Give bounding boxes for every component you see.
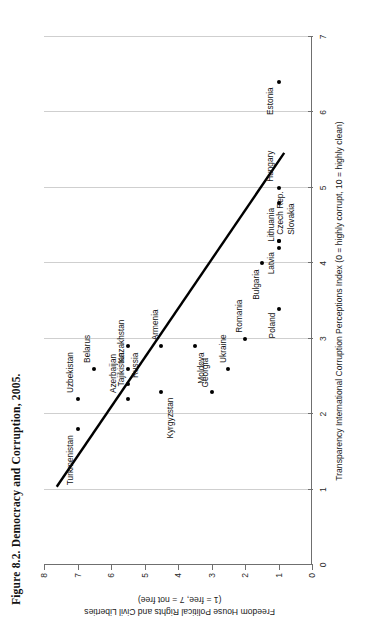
data-point-bulgaria (260, 261, 264, 265)
x-tick-label-6: 6 (318, 110, 328, 115)
x-tick-label-1: 1 (318, 487, 328, 492)
y-tick-label-0: 0 (307, 573, 317, 585)
y-tick-label-1: 1 (274, 573, 284, 585)
x-tick-4 (308, 262, 313, 263)
data-point-poland (277, 307, 281, 311)
data-point-ukraine (226, 367, 230, 371)
point-label-russia: Russia (130, 353, 140, 378)
data-point-romania (243, 337, 247, 341)
y-tick-label-2: 2 (240, 573, 250, 585)
y-tick-3 (212, 565, 213, 570)
data-point-estonia (277, 80, 281, 84)
y-tick-2 (245, 565, 246, 570)
data-point-uzbekistan (76, 397, 80, 401)
trend-line (44, 37, 312, 565)
point-label-poland: Poland (267, 313, 277, 339)
data-point-lithuania (277, 201, 281, 205)
data-point-tajikistan (126, 344, 130, 348)
y-tick-label-4: 4 (173, 573, 183, 585)
gridline-x-7 (44, 36, 312, 37)
y-tick-5 (145, 565, 146, 570)
point-label-kazakhstan: Kazakhstan (116, 320, 126, 363)
point-label-belarus: Belarus (82, 335, 92, 363)
point-label-czech-rep: Czech Rep. (275, 191, 285, 234)
x-tick-6 (308, 111, 313, 112)
rotated-figure-canvas: Figure 8.2. Democracy and Corruption, 20… (0, 0, 376, 619)
y-tick-1 (279, 565, 280, 570)
y-axis-title-line1: Freedom House Political Rights and Civil… (84, 607, 275, 617)
data-point-czech-rep (277, 239, 281, 243)
point-label-slovakia: Slovakia (286, 203, 296, 234)
x-tick-7 (308, 36, 313, 37)
data-point-moldova (193, 344, 197, 348)
x-axis-title: Transparency International Corruption Pe… (334, 37, 344, 565)
gridline-x-2 (44, 413, 312, 414)
data-point-azerbaijan (126, 397, 130, 401)
y-tick-7 (78, 565, 79, 570)
point-label-ukraine: Ukraine (218, 334, 228, 363)
plot-area: 01234567012345678 TurkmenistanUzbekistan… (44, 37, 312, 565)
data-point-hungary (277, 186, 281, 190)
data-point-turkmenistan (76, 427, 80, 431)
y-tick-label-6: 6 (106, 573, 116, 585)
point-label-romania: Romania (234, 300, 244, 333)
y-tick-6 (111, 565, 112, 570)
data-point-kyrgyzstan (159, 390, 163, 394)
x-axis-line (311, 37, 312, 565)
x-tick-label-7: 7 (318, 35, 328, 40)
x-tick-1 (308, 489, 313, 490)
gridline-x-1 (44, 489, 312, 490)
data-point-belarus (92, 367, 96, 371)
y-axis-title: Freedom House Political Rights and Civil… (80, 593, 280, 616)
figure-page: Figure 8.2. Democracy and Corruption, 20… (0, 0, 376, 619)
y-tick-label-7: 7 (73, 573, 83, 585)
point-label-uzbekistan: Uzbekistan (65, 352, 75, 393)
x-tick-label-0: 0 (318, 563, 328, 568)
point-label-latvia: Latvia (266, 252, 276, 274)
data-point-russia (126, 382, 130, 386)
point-label-turkmenistan: Turkmenistan (65, 435, 75, 485)
x-tick-label-4: 4 (318, 261, 328, 266)
data-point-armenia (159, 344, 163, 348)
y-axis-title-line2: (1 = free, 7 = not free) (138, 595, 222, 605)
point-label-georgia: Georgia (200, 358, 210, 388)
point-label-armenia: Armenia (150, 309, 160, 340)
y-tick-label-3: 3 (207, 573, 217, 585)
figure-title: Figure 8.2. Democracy and Corruption, 20… (10, 373, 22, 605)
x-tick-2 (308, 413, 313, 414)
gridline-x-5 (44, 187, 312, 188)
point-label-hungary: Hungary (265, 150, 275, 181)
y-tick-4 (178, 565, 179, 570)
y-tick-label-5: 5 (140, 573, 150, 585)
x-tick-3 (308, 338, 313, 339)
y-tick-8 (44, 565, 45, 570)
x-tick-5 (308, 187, 313, 188)
point-label-estonia: Estonia (265, 87, 275, 115)
point-label-kyrgyzstan: Kyrgyzstan (165, 398, 175, 439)
y-tick-0 (312, 565, 313, 570)
data-point-latvia (277, 246, 281, 250)
x-tick-label-2: 2 (318, 412, 328, 417)
data-point-georgia (210, 390, 214, 394)
point-label-bulgaria: Bulgaria (251, 269, 261, 299)
point-label-lithuania: Lithuania (266, 208, 276, 242)
y-tick-label-8: 8 (39, 573, 49, 585)
x-tick-label-5: 5 (318, 185, 328, 190)
x-tick-label-3: 3 (318, 336, 328, 341)
